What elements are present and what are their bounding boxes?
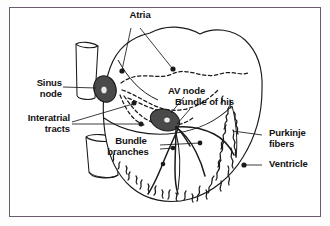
label-purkinje-fibers-line2: fibers bbox=[269, 139, 329, 150]
label-interatrial-tracts-line1: Interatrial bbox=[4, 113, 70, 124]
label-sinus-node-line1: Sinus bbox=[8, 78, 62, 89]
label-bundle-of-his: Bundle of his bbox=[175, 97, 265, 108]
figure-root: Atria Sinus node Interatrial tracts AV n… bbox=[0, 0, 330, 226]
label-interatrial-tracts-line2: tracts bbox=[4, 124, 70, 135]
label-ventricle: Ventricle bbox=[269, 159, 329, 170]
label-purkinje-fibers-line1: Purkinje bbox=[269, 128, 329, 139]
label-atria: Atria bbox=[112, 10, 168, 21]
label-bundle-branches-line1: Bundle bbox=[103, 136, 159, 147]
label-sinus-node-line2: node bbox=[8, 89, 62, 100]
label-bundle-branches-line2: branches bbox=[95, 147, 161, 158]
label-av-node: AV node bbox=[168, 86, 228, 97]
